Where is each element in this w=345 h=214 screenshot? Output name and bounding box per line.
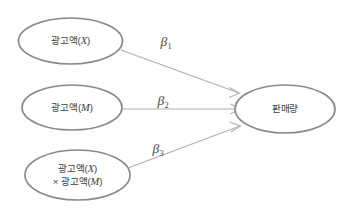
diagram-canvas: [0, 0, 345, 214]
node-predictor-m[interactable]: [22, 85, 122, 130]
arrow-head-beta3: [230, 122, 241, 132]
arrow-head-beta1: [229, 88, 240, 98]
node-predictor-x[interactable]: [19, 18, 123, 64]
node-predictor-interaction[interactable]: [25, 150, 130, 200]
node-outcome-sales[interactable]: [235, 85, 335, 133]
path-diagram: 광고액(X) 광고액(M) 광고액(X) × 광고액(M) 판매량 β1 β2 …: [0, 0, 345, 214]
edge-line-beta3: [128, 126, 240, 168]
edge-line-beta1: [121, 50, 239, 93]
edge-group: [121, 50, 241, 168]
